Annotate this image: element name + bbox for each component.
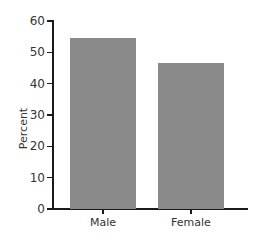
bar-chart: Percent 0102030405060 MaleFemale — [0, 0, 267, 246]
bar-male — [70, 38, 136, 209]
x-tick-mark — [102, 209, 104, 214]
y-tick-label: 50 — [20, 46, 45, 58]
y-tick-label: 60 — [20, 15, 45, 27]
x-tick-label: Female — [156, 216, 226, 229]
y-tick-mark — [47, 83, 53, 85]
y-tick-label: 30 — [20, 109, 45, 121]
y-tick-mark — [47, 114, 53, 116]
y-tick-mark — [47, 52, 53, 54]
y-tick-label: 40 — [20, 78, 45, 90]
y-tick-mark — [47, 146, 53, 148]
y-tick-label: 10 — [20, 172, 45, 184]
y-tick-mark — [47, 20, 53, 22]
y-tick-mark — [47, 208, 53, 210]
y-tick-label: 0 — [20, 203, 45, 215]
x-tick-mark — [190, 209, 192, 214]
x-tick-label: Male — [68, 216, 138, 229]
y-tick-label: 20 — [20, 140, 45, 152]
y-tick-mark — [47, 177, 53, 179]
bar-female — [158, 63, 224, 209]
